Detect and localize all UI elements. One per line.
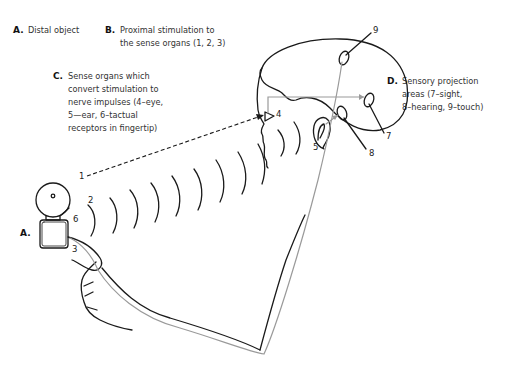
marker-9: 9 bbox=[373, 25, 378, 35]
marker-5: 5 bbox=[313, 142, 318, 152]
arm-outline bbox=[102, 268, 260, 350]
marker-3: 3 bbox=[72, 244, 77, 254]
sight-area-7 bbox=[362, 92, 375, 108]
marker-6: 6 bbox=[73, 214, 78, 224]
light-path-dashed bbox=[87, 115, 264, 176]
box-object bbox=[40, 220, 68, 248]
marker-8: 8 bbox=[369, 148, 374, 158]
marker-1: 1 bbox=[79, 171, 84, 181]
perception-diagram bbox=[0, 0, 505, 376]
hand-icon bbox=[81, 262, 132, 330]
marker-7: 7 bbox=[386, 131, 391, 141]
eye-icon bbox=[265, 112, 274, 121]
marker-4: 4 bbox=[276, 109, 281, 119]
tactile-nerve-path bbox=[70, 62, 342, 354]
marker-2: 2 bbox=[88, 195, 93, 205]
